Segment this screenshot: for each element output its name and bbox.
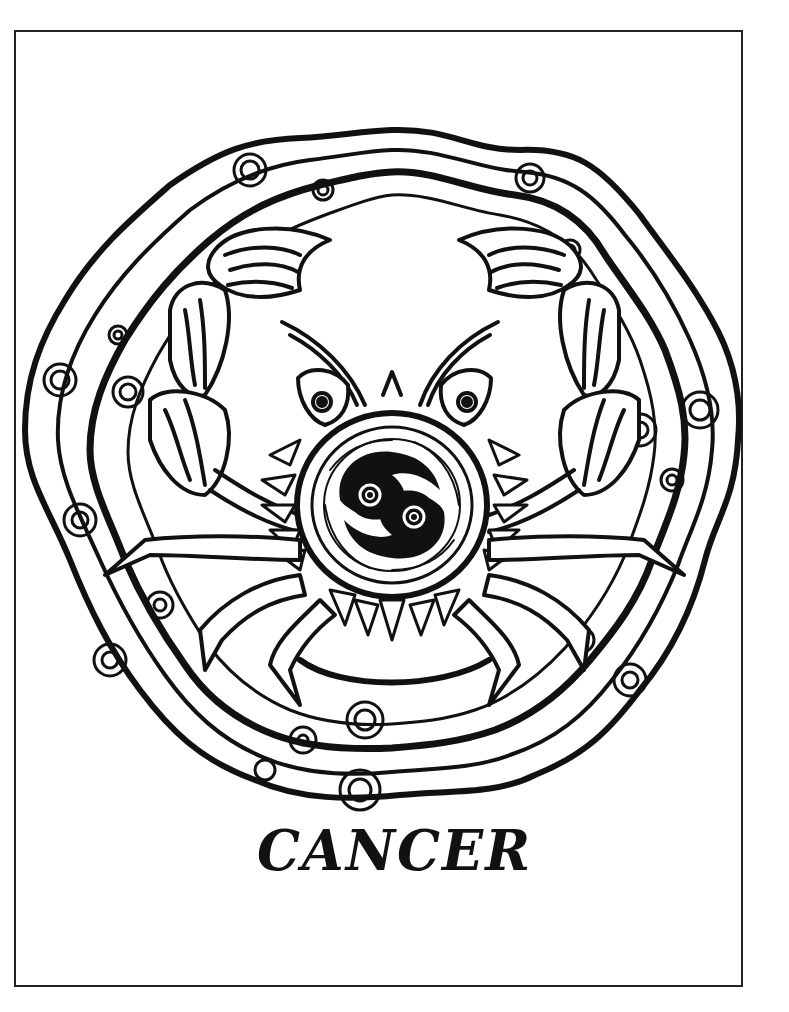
zodiac-title: CANCER: [0, 816, 789, 883]
coloring-page: CANCER: [0, 0, 789, 1012]
zodiac-title-text: CANCER: [257, 816, 532, 883]
